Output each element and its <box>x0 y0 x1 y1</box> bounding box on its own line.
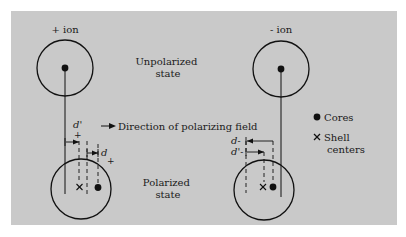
legend-cores-label: Cores <box>324 112 354 123</box>
negative-core-displacement-label: d- <box>231 135 240 146</box>
legend-core-dot-icon <box>314 114 321 121</box>
negative-polarized-core-dot-icon <box>270 184 277 191</box>
field-direction-label: Direction of polarizing field <box>118 121 258 132</box>
positive-polarized-core-dot-icon <box>95 184 102 191</box>
positive-shell-displacement-label: d' <box>73 119 82 130</box>
positive-core-displacement-subscript: + <box>107 156 115 166</box>
negative-ion-label: - ion <box>270 24 293 35</box>
negative-shell-displacement-label: d'- <box>231 146 243 157</box>
positive-shell-displacement-subscript: + <box>74 130 82 140</box>
polarization-diagram: + ion d' + d + Unpolarized state Polariz… <box>0 0 406 237</box>
positive-ion-label: + ion <box>51 24 79 35</box>
